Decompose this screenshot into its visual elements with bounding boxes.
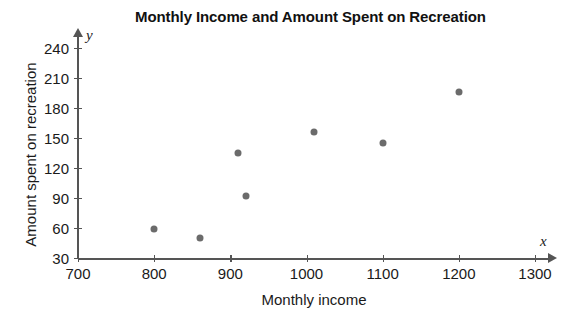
y-axis-line	[77, 36, 79, 259]
data-point	[311, 129, 318, 136]
y-axis-arrow-icon	[73, 28, 83, 37]
data-point	[379, 140, 386, 147]
y-tick-label-90: 90	[52, 190, 69, 207]
scatter-plot-figure: Monthly Income and Amount Spent on Recre…	[0, 0, 575, 324]
x-tick-label-700: 700	[65, 265, 90, 282]
y-tick-label-210: 210	[44, 70, 69, 87]
data-point	[234, 150, 241, 157]
y-tick-60	[74, 228, 82, 229]
x-tick-800	[154, 255, 155, 262]
x-axis-variable-label: x	[540, 233, 547, 250]
y-tick-150	[74, 138, 82, 139]
y-tick-label-180: 180	[44, 100, 69, 117]
y-axis-title: Amount spent on recreation	[22, 40, 39, 270]
y-tick-label-30: 30	[52, 250, 69, 267]
y-axis-variable-label: y	[86, 27, 93, 44]
y-tick-90	[74, 198, 82, 199]
data-point	[242, 193, 249, 200]
x-tick-label-900: 900	[218, 265, 243, 282]
y-tick-180	[74, 108, 82, 109]
y-tick-label-150: 150	[44, 130, 69, 147]
data-point	[455, 89, 462, 96]
y-tick-label-60: 60	[52, 220, 69, 237]
data-point	[196, 235, 203, 242]
x-tick-label-1300: 1300	[518, 265, 551, 282]
x-tick-label-1000: 1000	[290, 265, 323, 282]
x-axis-line	[78, 258, 550, 260]
y-tick-30	[74, 258, 82, 259]
x-tick-1000	[307, 255, 308, 262]
x-tick-label-800: 800	[142, 265, 167, 282]
plot-area: x y 7008009001000110012001300 3060901201…	[0, 0, 575, 324]
y-tick-210	[74, 78, 82, 79]
y-tick-240	[74, 48, 82, 49]
x-axis-title: Monthly income	[78, 291, 550, 308]
y-tick-label-240: 240	[44, 40, 69, 57]
x-tick-label-1100: 1100	[367, 265, 399, 282]
y-tick-label-120: 120	[44, 160, 69, 177]
data-point	[151, 226, 158, 233]
x-tick-900	[230, 255, 231, 262]
x-tick-1200	[459, 255, 460, 262]
y-tick-120	[74, 168, 82, 169]
x-tick-1300	[535, 255, 536, 262]
x-tick-1100	[383, 255, 384, 262]
x-tick-label-1200: 1200	[442, 265, 475, 282]
x-axis-arrow-icon	[548, 253, 557, 263]
